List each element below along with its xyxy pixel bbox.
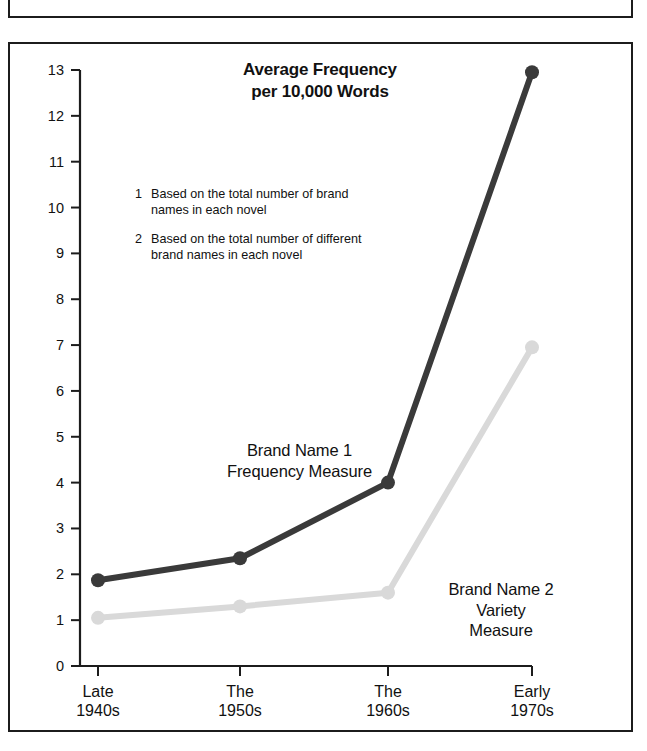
- series-1-label-line-2: Frequency Measure: [227, 462, 372, 480]
- data-point: [233, 551, 247, 565]
- y-axis-ticks: [71, 70, 80, 666]
- series-points-brand-name-1: [91, 65, 539, 587]
- y-tick-label: 5: [34, 429, 64, 445]
- chart-title: Average Frequency per 10,000 Words: [170, 59, 470, 103]
- series-2-label-line-1: Brand Name 2: [448, 580, 553, 598]
- x-tick-label: The1950s: [180, 682, 300, 720]
- x-tick-label-line-2: 1960s: [328, 701, 448, 720]
- y-tick-label: 6: [34, 383, 64, 399]
- y-tick-label: 10: [34, 200, 64, 216]
- x-tick-label-line-1: Early: [514, 683, 550, 700]
- chart-frame: 131211109876543210 Late1940sThe1950sThe1…: [8, 42, 633, 732]
- x-tick-label-line-1: The: [374, 683, 402, 700]
- x-tick-label-line-1: The: [226, 683, 254, 700]
- upper-panel-edge: [8, 0, 633, 18]
- plot-area: 131211109876543210 Late1940sThe1950sThe1…: [10, 44, 631, 730]
- series-1-label-line-1: Brand Name 1: [247, 441, 352, 459]
- series-label-brand-name-2: Brand Name 2 Variety Measure: [406, 579, 596, 641]
- footnote-list: 1 Based on the total number of brand nam…: [135, 186, 465, 276]
- data-point: [525, 65, 539, 79]
- y-tick-label: 13: [34, 62, 64, 78]
- x-tick-label: Late1940s: [38, 682, 158, 720]
- x-tick-label-line-2: 1970s: [472, 701, 592, 720]
- y-tick-label: 4: [34, 475, 64, 491]
- y-tick-label: 3: [34, 520, 64, 536]
- data-point: [233, 599, 247, 613]
- y-tick-label: 11: [34, 154, 64, 170]
- x-tick-label: Early1970s: [472, 682, 592, 720]
- data-point: [381, 586, 395, 600]
- footnote-2-number: 2: [135, 231, 151, 263]
- chart-title-line-2: per 10,000 Words: [251, 82, 388, 101]
- y-tick-label: 7: [34, 337, 64, 353]
- x-tick-label-line-1: Late: [82, 683, 113, 700]
- y-tick-label: 0: [34, 658, 64, 674]
- y-tick-label: 1: [34, 612, 64, 628]
- data-point: [91, 611, 105, 625]
- series-line-brand-name-2: [98, 347, 532, 617]
- data-point: [91, 573, 105, 587]
- footnote-1-number: 1: [135, 186, 151, 218]
- footnote-1-text: Based on the total number of brand names…: [151, 186, 465, 218]
- footnote-2-line-2: brand names in each novel: [151, 248, 302, 262]
- x-tick-label: The1960s: [328, 682, 448, 720]
- data-point: [525, 340, 539, 354]
- x-axis-ticks: [98, 666, 532, 676]
- footnote-2-text: Based on the total number of different b…: [151, 231, 465, 263]
- footnote-1: 1 Based on the total number of brand nam…: [135, 186, 465, 218]
- x-tick-label-line-2: 1950s: [180, 701, 300, 720]
- series-2-label-line-3: Measure: [469, 621, 533, 639]
- series-2-label-line-2: Variety: [476, 601, 525, 619]
- footnote-1-line-1: Based on the total number of brand: [151, 187, 348, 201]
- x-tick-label-line-2: 1940s: [38, 701, 158, 720]
- series-line-brand-name-1: [98, 72, 532, 580]
- y-tick-label: 12: [34, 108, 64, 124]
- footnote-2: 2 Based on the total number of different…: [135, 231, 465, 263]
- footnote-2-line-1: Based on the total number of different: [151, 232, 362, 246]
- y-tick-label: 2: [34, 566, 64, 582]
- y-tick-label: 8: [34, 291, 64, 307]
- chart-title-line-1: Average Frequency: [243, 60, 397, 79]
- series-label-brand-name-1: Brand Name 1 Frequency Measure: [192, 440, 407, 481]
- y-tick-label: 9: [34, 245, 64, 261]
- footnote-1-line-2: names in each novel: [151, 203, 267, 217]
